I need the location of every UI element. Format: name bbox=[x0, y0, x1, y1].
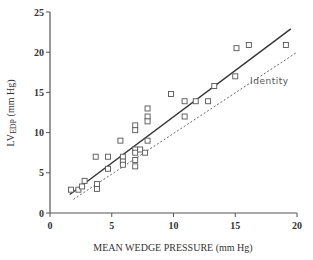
data-point bbox=[118, 138, 123, 143]
x-tick-label: 5 bbox=[109, 220, 114, 231]
data-point bbox=[133, 123, 138, 128]
y-tick-label: 10 bbox=[34, 127, 44, 138]
data-point bbox=[145, 114, 150, 119]
data-point bbox=[182, 114, 187, 119]
data-point bbox=[246, 42, 251, 47]
y-tick-label: 0 bbox=[39, 208, 44, 219]
data-point bbox=[106, 166, 111, 171]
data-point bbox=[120, 162, 125, 167]
data-point bbox=[94, 186, 99, 191]
x-axis-title: MEAN WEDGE PRESSURE (mm Hg) bbox=[93, 242, 252, 254]
data-point bbox=[138, 147, 143, 152]
regression-line bbox=[70, 29, 291, 195]
y-axis-title-unit: (mm Hg) bbox=[5, 80, 17, 119]
y-axis-title-sub: EDP bbox=[9, 118, 18, 134]
x-tick-label: 20 bbox=[292, 220, 302, 231]
data-point bbox=[169, 92, 174, 97]
y-tick-label: 15 bbox=[34, 87, 44, 98]
data-point bbox=[212, 83, 217, 88]
y-axis-title-main: LV bbox=[5, 133, 16, 146]
data-point bbox=[133, 164, 138, 169]
data-point bbox=[133, 150, 138, 155]
data-point bbox=[193, 99, 198, 104]
y-tick-label: 5 bbox=[39, 167, 44, 178]
data-point bbox=[182, 99, 187, 104]
data-point bbox=[106, 154, 111, 159]
x-tick-label: 10 bbox=[169, 220, 179, 231]
identity-label: Identity bbox=[250, 76, 289, 86]
data-point bbox=[145, 119, 150, 124]
y-tick-label: 20 bbox=[34, 47, 44, 58]
axes: 051015202505101520 bbox=[34, 7, 302, 232]
data-point bbox=[233, 74, 238, 79]
scatter-chart: 051015202505101520 Identity MEAN WEDGE P… bbox=[0, 0, 313, 260]
data-point bbox=[133, 128, 138, 133]
data-point bbox=[145, 106, 150, 111]
data-point bbox=[206, 99, 211, 104]
data-points bbox=[68, 42, 288, 192]
data-point bbox=[120, 154, 125, 159]
data-point bbox=[82, 178, 87, 183]
data-point bbox=[283, 42, 288, 47]
data-point bbox=[94, 182, 99, 187]
x-tick-label: 0 bbox=[48, 220, 53, 231]
data-point bbox=[145, 138, 150, 143]
data-point bbox=[80, 184, 85, 189]
y-axis-title: LVEDP (mm Hg) bbox=[5, 80, 18, 147]
data-point bbox=[93, 154, 98, 159]
identity-line bbox=[73, 52, 297, 199]
y-tick-label: 25 bbox=[34, 7, 44, 18]
x-tick-label: 15 bbox=[230, 220, 240, 231]
data-point bbox=[143, 150, 148, 155]
data-point bbox=[68, 187, 73, 192]
data-point bbox=[234, 46, 239, 51]
data-point bbox=[133, 157, 138, 162]
